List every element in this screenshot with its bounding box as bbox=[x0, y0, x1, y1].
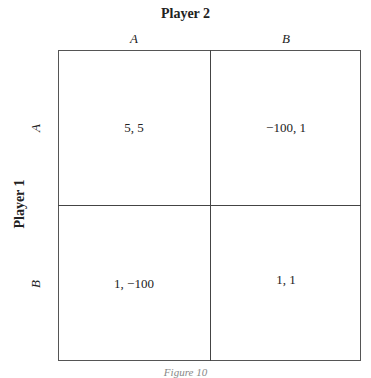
payoff-cell-b-a: 1, −100 bbox=[58, 276, 210, 292]
payoff-cell-a-b: −100, 1 bbox=[210, 120, 362, 136]
row-strategy-a: A bbox=[28, 118, 44, 138]
matrix-horizontal-divider bbox=[58, 205, 361, 206]
row-strategy-b: B bbox=[28, 274, 44, 294]
player-2-label: Player 2 bbox=[0, 6, 371, 22]
column-strategy-b: B bbox=[210, 31, 362, 47]
payoff-cell-a-a: 5, 5 bbox=[58, 120, 210, 136]
player-1-label: Player 1 bbox=[12, 154, 28, 254]
figure-caption: Figure 10 bbox=[0, 366, 371, 378]
column-strategy-a: A bbox=[58, 31, 210, 47]
payoff-cell-b-b: 1, 1 bbox=[210, 272, 362, 288]
